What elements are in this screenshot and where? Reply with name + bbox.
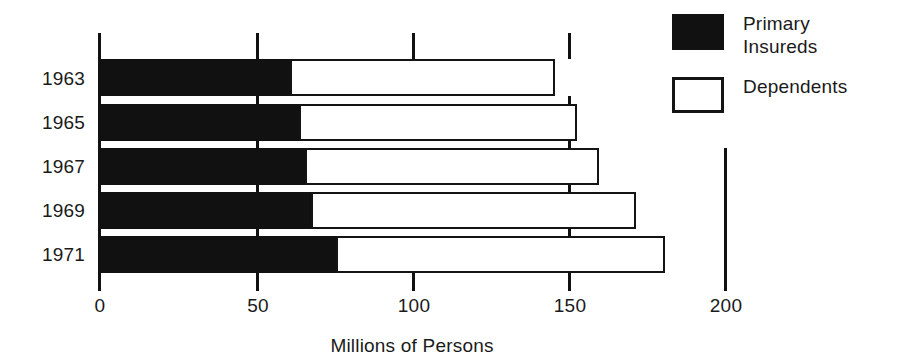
bar-segment-dependents-1967 bbox=[305, 148, 599, 185]
x-tick-bottom-150 bbox=[568, 272, 571, 291]
x-tick-bottom-0 bbox=[98, 272, 101, 291]
legend-label-dependents: Dependents bbox=[743, 75, 847, 98]
legend-item-primary-insureds[interactable]: Primary Insureds bbox=[672, 12, 817, 58]
x-tick-label-50: 50 bbox=[247, 296, 269, 315]
bar-row-1969 bbox=[100, 192, 636, 229]
bar-segment-primary-1971 bbox=[100, 236, 338, 273]
x-tick-label-150: 150 bbox=[554, 296, 586, 315]
legend-item-dependents[interactable]: Dependents bbox=[672, 75, 847, 113]
x-axis-title: Millions of Persons bbox=[330, 336, 493, 355]
x-tick-label-0: 0 bbox=[95, 296, 106, 315]
bar-segment-primary-1967 bbox=[100, 148, 307, 185]
bar-row-1971 bbox=[100, 236, 665, 273]
x-tick-bottom-200 bbox=[724, 148, 727, 291]
x-tick-bottom-100 bbox=[412, 272, 415, 291]
x-tick-label-100: 100 bbox=[398, 296, 430, 315]
category-label-1967: 1967 bbox=[42, 157, 85, 176]
legend-swatch-filled-icon bbox=[672, 14, 724, 50]
legend-label-primary-insureds: Primary Insureds bbox=[743, 12, 817, 58]
bar-segment-dependents-1971 bbox=[336, 236, 665, 273]
bar-segment-primary-1969 bbox=[100, 192, 313, 229]
chart-figure: 1963 1965 1967 1969 1971 0 50 100 150 20… bbox=[0, 0, 899, 363]
legend-swatch-open-icon bbox=[672, 77, 724, 113]
category-label-1969: 1969 bbox=[42, 201, 85, 220]
chart-legend: Primary Insureds Dependents bbox=[0, 0, 899, 120]
x-tick-label-200: 200 bbox=[710, 296, 742, 315]
x-tick-bottom-50 bbox=[256, 272, 259, 291]
bar-segment-dependents-1969 bbox=[311, 192, 636, 229]
category-label-1971: 1971 bbox=[42, 245, 85, 264]
bar-row-1967 bbox=[100, 148, 599, 185]
